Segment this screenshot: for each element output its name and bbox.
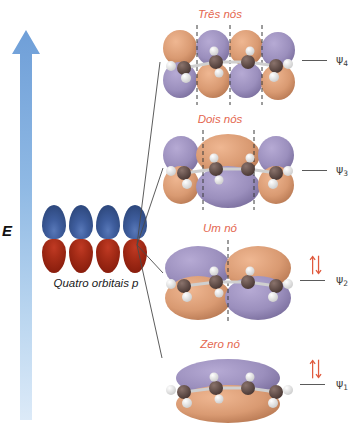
orbital-render-psi4 [158,22,298,108]
node-count-label-psi1: Zero nó [150,338,290,350]
orbital-render-psi2 [158,236,298,326]
psi-index: 2 [343,279,348,288]
mo-level-psi1: Zero nó ψ1 [150,338,355,427]
energy-level-line-psi1 [300,384,325,385]
psi-label-psi3: ψ3 [336,163,348,178]
node-count-label-psi4: Três nós [150,8,290,20]
mo-energy-diagram: E Quatro orbitais p [0,0,355,427]
node-count-label-psi3: Dois nós [150,113,290,125]
electron-pair-psi1 [305,358,327,380]
energy-level-line-psi3 [302,170,327,171]
mo-level-psi2: Um nó [150,222,355,327]
psi-label-psi4: ψ4 [336,53,348,68]
psi-label-psi2: ψ2 [336,273,348,288]
psi-index: 4 [343,59,348,68]
psi-index: 1 [343,383,348,392]
psi-label-psi1: ψ1 [336,377,348,392]
electron-pair-psi2 [305,254,327,276]
mo-level-psi3: Dois nós ψ3 [150,113,355,213]
energy-level-line-psi2 [300,280,325,281]
energy-level-line-psi4 [302,60,327,61]
orbital-render-psi3 [158,127,298,213]
orbital-render-psi1 [158,352,298,427]
psi-index: 3 [343,169,348,178]
node-count-label-psi2: Um nó [150,222,290,234]
mo-level-psi4: Três nós [150,8,355,108]
